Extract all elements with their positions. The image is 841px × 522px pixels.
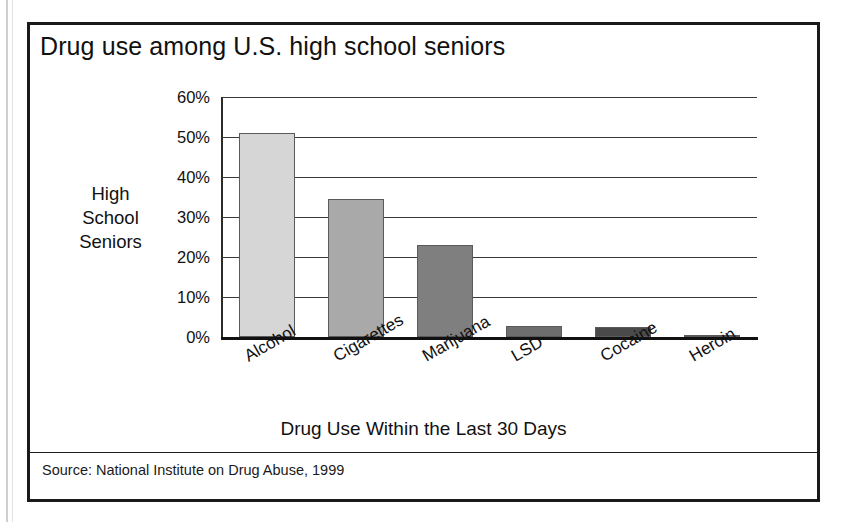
y-axis-tick-label: 60% bbox=[92, 88, 210, 107]
y-axis-tick-label: 40% bbox=[92, 168, 210, 187]
x-axis-title: Drug Use Within the Last 30 Days bbox=[27, 418, 820, 440]
y-axis-tick-label: 30% bbox=[92, 208, 210, 227]
bar-cigarettes bbox=[328, 199, 384, 337]
x-axis-line bbox=[221, 337, 758, 340]
source-divider bbox=[30, 452, 817, 453]
chart-figure: Drug use among U.S. high school seniors … bbox=[0, 0, 841, 522]
source-note: Source: National Institute on Drug Abuse… bbox=[42, 462, 344, 478]
y-axis-tick-label: 0% bbox=[92, 328, 210, 347]
page-edge-line-secondary bbox=[12, 0, 13, 522]
chart-title: Drug use among U.S. high school seniors bbox=[40, 32, 505, 61]
page-edge-line bbox=[6, 0, 8, 522]
y-axis-tick-label: 20% bbox=[92, 248, 210, 267]
bar-alcohol bbox=[239, 133, 295, 337]
y-axis-tick-label: 50% bbox=[92, 128, 210, 147]
bars-group bbox=[222, 97, 757, 337]
y-axis-tick-label: 10% bbox=[92, 288, 210, 307]
